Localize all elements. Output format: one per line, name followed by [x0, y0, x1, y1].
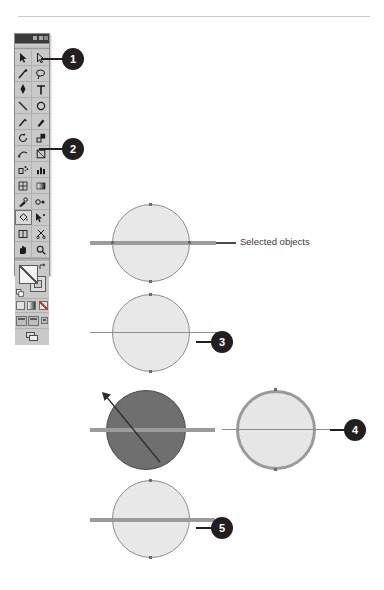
swap-fill-stroke-icon[interactable]	[39, 263, 47, 271]
callout-3: 3	[211, 331, 233, 353]
change-screen-mode-icon[interactable]	[26, 332, 39, 342]
selection-path-line-1[interactable]	[90, 241, 216, 245]
lasso-tool[interactable]	[32, 66, 49, 82]
scale-tool[interactable]	[32, 130, 49, 146]
blend-icon	[35, 197, 46, 207]
stroked-circle[interactable]	[236, 390, 316, 470]
tools-palette[interactable]	[14, 33, 50, 276]
hand-icon	[18, 245, 28, 255]
selection-arrow-icon	[19, 53, 28, 63]
figure-darkened-circle	[90, 388, 240, 472]
anchor-point-bottom	[274, 468, 277, 471]
anchor-point-bottom	[149, 280, 152, 283]
lasso-icon	[35, 69, 46, 79]
ellipse-shape-icon	[36, 101, 46, 111]
callout-5: 5	[211, 517, 233, 539]
selection-path-line-5[interactable]	[90, 518, 215, 522]
scissors-icon	[36, 229, 46, 239]
palette-title-bar[interactable]	[15, 34, 49, 44]
selection-path-line-2[interactable]	[90, 332, 218, 333]
anchor-point-bottom	[149, 556, 152, 559]
anchor-point-top	[149, 293, 152, 296]
paint-bucket-icon	[18, 213, 29, 223]
scale-icon	[36, 133, 46, 143]
eyedropper-icon	[18, 197, 28, 207]
pencil-tool[interactable]	[32, 114, 49, 130]
hand-tool[interactable]	[15, 242, 32, 258]
header-rule	[18, 16, 370, 17]
none-mode-button[interactable]	[39, 301, 48, 310]
scissors-tool[interactable]	[32, 226, 49, 242]
type-tool[interactable]	[32, 82, 49, 98]
free-transform-icon	[36, 149, 46, 159]
pen-nib-icon	[19, 84, 27, 95]
slice-tool[interactable]	[15, 226, 32, 242]
color-mode-button[interactable]	[16, 301, 25, 310]
live-paint-selection-tool[interactable]	[32, 210, 49, 226]
fill-swatch[interactable]	[19, 265, 38, 284]
mesh-grid-icon	[18, 181, 28, 191]
selection-path-line-4[interactable]	[222, 429, 340, 430]
anchor-point-top	[149, 479, 152, 482]
callout-2: 2	[62, 138, 84, 160]
callout-1: 1	[62, 48, 84, 70]
gradient-tool[interactable]	[32, 178, 49, 194]
gradient-icon	[36, 181, 46, 191]
line-segment-tool[interactable]	[15, 98, 32, 114]
warp-tool[interactable]	[15, 146, 32, 162]
tool-grid	[15, 49, 49, 258]
line-segment-icon	[18, 101, 28, 111]
symbol-sprayer-icon	[18, 165, 29, 175]
anchor-point-bottom	[149, 370, 152, 373]
rotate-tool[interactable]	[15, 130, 32, 146]
anchor-point-top	[149, 203, 152, 206]
symbol-sprayer-tool[interactable]	[15, 162, 32, 178]
column-graph-icon	[36, 165, 46, 175]
normal-screen-mode-button[interactable]	[16, 316, 27, 326]
default-fill-stroke-icon[interactable]	[16, 289, 24, 297]
warp-icon	[18, 149, 29, 159]
mesh-tool[interactable]	[15, 178, 32, 194]
paintbrush-tool[interactable]	[15, 114, 32, 130]
full-screen-mode-button[interactable]	[41, 317, 48, 324]
zoom-tool[interactable]	[32, 242, 49, 258]
magic-wand-icon	[18, 69, 28, 79]
live-paint-selection-icon	[35, 213, 46, 223]
selected-objects-label: Selected objects	[240, 236, 310, 247]
close-button[interactable]	[44, 36, 48, 40]
color-mode-row	[15, 298, 49, 312]
paintbrush-icon	[18, 117, 28, 127]
figure-selected-objects: Selected objects	[90, 204, 300, 286]
page-canvas: 1 2 Selected objects 3 4	[0, 0, 384, 590]
slice-icon	[18, 229, 28, 239]
type-T-icon	[36, 85, 46, 95]
blend-tool[interactable]	[32, 194, 49, 210]
rotate-icon	[18, 133, 29, 143]
magic-wand-tool[interactable]	[15, 66, 32, 82]
anchor-point-left	[111, 241, 114, 244]
pencil-icon	[36, 117, 46, 127]
label-leader-dash	[216, 242, 236, 244]
second-circle[interactable]	[112, 294, 190, 372]
screen-mode-row	[15, 312, 49, 328]
maximize-button[interactable]	[39, 36, 43, 40]
full-screen-with-menu-button[interactable]	[28, 316, 39, 326]
magnifier-icon	[36, 245, 46, 255]
eyedropper-tool[interactable]	[15, 194, 32, 210]
gradient-mode-button[interactable]	[27, 301, 36, 310]
palette-footer	[15, 328, 49, 345]
anchor-point-right	[188, 241, 191, 244]
drag-diagonal-line	[102, 392, 184, 468]
ellipse-tool[interactable]	[32, 98, 49, 114]
column-graph-tool[interactable]	[32, 162, 49, 178]
pen-tool[interactable]	[15, 82, 32, 98]
live-paint-bucket-tool[interactable]	[15, 210, 32, 225]
anchor-point-top	[274, 388, 277, 391]
selection-tool[interactable]	[15, 50, 32, 66]
minimize-button[interactable]	[33, 36, 37, 40]
callout-4: 4	[344, 419, 366, 441]
fill-stroke-controls[interactable]	[15, 262, 49, 298]
